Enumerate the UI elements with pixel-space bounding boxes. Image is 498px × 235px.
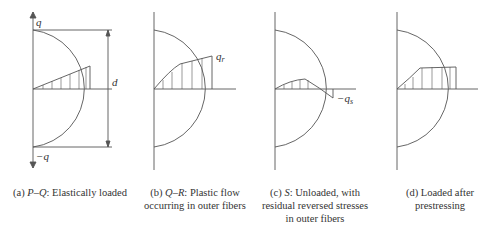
caption-rest: : Elastically loaded [47,187,127,198]
caption-rest: : Plastic flow [184,187,239,198]
label-minus-q: −q [36,150,49,162]
dim-arrow-icon [106,30,110,36]
caption-prefix: (c) [270,187,284,198]
caption-line2: prestressing [415,200,465,211]
label-qr: qr [216,50,226,64]
caption-italic: Q–R [165,187,184,198]
caption-italic: P–Q [27,187,46,198]
panel-a [30,12,112,168]
panel-b [154,12,236,170]
caption-prefix: (b) [150,187,165,198]
caption-a: (a) P–Q: Elastically loaded [5,186,135,199]
caption-prefix: (a) [13,187,27,198]
caption-b: (b) Q–R: Plastic flowoccurring in outer … [135,186,255,212]
caption-line3: in outer fibers [286,213,345,224]
caption-c: (c) S: Unloaded, withresidual reversed s… [255,186,375,225]
caption-line2: residual reversed stresses [262,200,368,211]
label-qs: −qs [337,92,353,106]
stress-triangle [33,66,90,89]
caption-prefix: (d) Loaded after [406,187,474,198]
caption-d: (d) Loaded afterprestressing [385,186,495,212]
caption-line2: occurring in outer fibers [144,200,246,211]
semicircle [33,30,84,147]
arrow-down-icon [30,162,36,168]
dim-arrow-icon [106,141,110,147]
label-d: d [112,76,118,88]
caption-rest: : Unloaded, with [290,187,360,198]
panel-c [275,12,356,170]
panel-d [397,12,478,170]
label-q: q [36,16,42,28]
